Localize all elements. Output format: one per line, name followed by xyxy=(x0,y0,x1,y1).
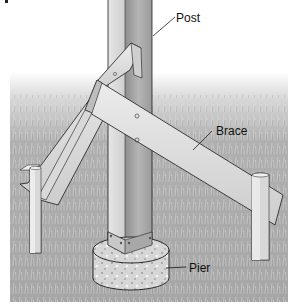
post-brace-diagram xyxy=(0,0,298,306)
post-leader-line xyxy=(153,17,175,36)
illustration: Post Brace Pier xyxy=(0,0,298,306)
pier xyxy=(93,232,169,290)
left-stake-front xyxy=(30,166,41,253)
brace-label: Brace xyxy=(216,125,247,137)
post-label: Post xyxy=(176,12,200,24)
pier-label: Pier xyxy=(189,262,210,274)
right-stake-front xyxy=(252,173,269,260)
corner-mark xyxy=(5,0,8,3)
